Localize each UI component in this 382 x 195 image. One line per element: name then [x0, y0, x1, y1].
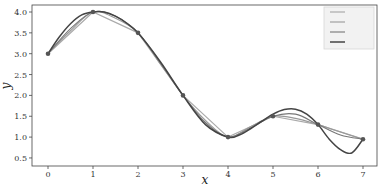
data-point: [91, 10, 96, 15]
y-tick-label: 4.0: [14, 8, 27, 17]
data-point: [226, 135, 231, 140]
data-point: [136, 31, 141, 36]
data-point: [316, 122, 321, 127]
x-tick-label: 7: [360, 170, 365, 179]
y-tick-label: 0.5: [14, 154, 27, 163]
legend: [324, 7, 374, 49]
data-point: [361, 137, 366, 142]
y-tick-label: 2.0: [14, 91, 27, 100]
y-tick-label: 2.5: [14, 71, 27, 80]
x-tick-label: 0: [45, 170, 50, 179]
y-tick-label: 3.5: [14, 29, 27, 38]
x-tick-label: 3: [180, 170, 185, 179]
data-point: [181, 93, 186, 98]
data-point: [46, 51, 51, 56]
x-tick-label: 4: [225, 170, 230, 179]
series-line-smooth-1: [48, 11, 363, 139]
y-axis-label: y: [0, 82, 13, 90]
data-points: [46, 10, 366, 142]
x-tick-label: 2: [135, 170, 140, 179]
series-line-cubic-spline: [48, 12, 363, 154]
data-point: [271, 114, 276, 119]
y-tick-label: 3.0: [14, 50, 27, 59]
x-axis-label: x: [202, 173, 209, 187]
y-tick-label: 1.0: [14, 133, 27, 142]
chart: 01234567 0.51.01.52.02.53.03.54.0 x y: [0, 0, 382, 195]
y-axis-ticks: 0.51.01.52.02.53.03.54.0: [14, 8, 32, 163]
x-tick-label: 5: [270, 170, 275, 179]
x-tick-label: 6: [315, 170, 320, 179]
y-tick-label: 1.5: [14, 112, 27, 121]
x-tick-label: 1: [90, 170, 95, 179]
plot-lines: [48, 11, 363, 153]
